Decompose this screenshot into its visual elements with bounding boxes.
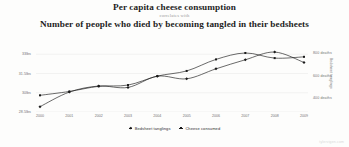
data-point (303, 56, 305, 58)
series-bedsheet-tanglings (39, 51, 306, 109)
legend-marker-diamond-icon (129, 127, 132, 130)
data-point (127, 84, 129, 86)
x-tick-label: 2006 (212, 114, 220, 118)
chart-title-primary: Per capita cheese consumption (0, 2, 349, 13)
plot-svg (36, 44, 308, 112)
data-point (186, 70, 188, 72)
y-tick-label-left: 31.5lbs (19, 72, 31, 76)
legend-label: Bedsheet tanglings (135, 126, 171, 131)
legend-label: Cheese consumed (185, 126, 220, 131)
x-tick-label: 2001 (65, 114, 73, 118)
series-cheese-consumed (39, 52, 305, 96)
y-tick-label-right: 600 deaths (313, 74, 332, 78)
gridlines (36, 54, 308, 112)
data-point (97, 85, 100, 88)
watermark-text: tylervigen.com (319, 140, 344, 144)
y-tick-label-right: 800 deaths (313, 51, 332, 55)
y-tick-label-left: 30lbs (22, 91, 31, 95)
x-axis-ticks: 2000200120022003200420052006200720082009 (36, 114, 308, 124)
spurious-correlation-chart: Per capita cheese consumption correlates… (0, 0, 349, 147)
x-tick-label: 2004 (153, 114, 161, 118)
chart-title-block: Per capita cheese consumption correlates… (0, 2, 349, 30)
legend-entry[interactable]: Cheese consumed (179, 126, 220, 131)
legend-entry[interactable]: Bedsheet tanglings (129, 126, 171, 131)
legend-marker-square-icon (179, 127, 182, 130)
series-layer (39, 51, 306, 109)
y-tick-label-left: 33lbs (22, 52, 31, 56)
x-tick-label: 2007 (241, 114, 249, 118)
data-point (215, 58, 217, 60)
y-tick-label-right: 400 deaths (313, 96, 332, 100)
chart-title-secondary: Number of people who died by becoming ta… (0, 19, 349, 30)
x-tick-label: 2000 (36, 114, 44, 118)
y-axis-left-ticks: 28.5lbs30lbs31.5lbs33lbs (0, 44, 33, 112)
x-tick-label: 2009 (300, 114, 308, 118)
data-point (244, 58, 247, 61)
data-point (39, 94, 41, 96)
x-tick-label: 2008 (271, 114, 279, 118)
data-point (215, 67, 218, 70)
data-point (127, 86, 130, 89)
x-tick-label: 2003 (124, 114, 132, 118)
series-line (40, 52, 304, 107)
y-axis-right-ticks: 400 deaths600 deaths800 deaths (311, 44, 345, 112)
y-tick-label-left: 28.5lbs (19, 110, 31, 114)
data-point (185, 77, 188, 80)
data-point (244, 52, 246, 54)
data-point (274, 57, 276, 59)
plot-area (36, 44, 308, 112)
data-point (303, 61, 306, 64)
data-point (273, 51, 276, 54)
x-tick-label: 2002 (95, 114, 103, 118)
data-point (39, 105, 42, 108)
x-tick-label: 2005 (183, 114, 191, 118)
data-point (156, 75, 159, 78)
chart-legend: Bedsheet tanglingsCheese consumed (0, 126, 349, 131)
